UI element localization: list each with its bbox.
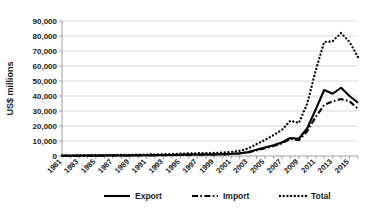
series-line-import [62,99,358,156]
x-tick-label: 1989 [113,157,131,175]
x-tick-label: 1991 [130,157,148,175]
y-tick-label: 70,000 [33,47,58,56]
x-axis-tick-labels: 1981198319851987198919911993199519971999… [45,156,358,175]
x-tick-label: 1985 [79,157,97,175]
x-tick-label: 2013 [316,157,334,175]
y-tick-label: 80,000 [33,32,58,41]
legend-label-total: Total [311,191,331,201]
y-tick-label: 60,000 [33,62,58,71]
x-tick-label: 1999 [197,157,215,175]
legend-label-export: Export [135,191,162,201]
x-tick-label: 2003 [231,157,249,175]
data-series [62,33,358,156]
y-tick-label: 20,000 [33,122,58,131]
chart-legend: ExportImportTotal [104,191,331,201]
gridlines [62,21,358,141]
x-tick-label: 1997 [181,157,199,175]
x-tick-label: 2009 [282,157,300,175]
x-tick-label: 2011 [299,157,317,175]
y-tick-label: 30,000 [33,107,58,116]
x-tick-label: 1983 [62,157,80,175]
x-tick-label: 2015 [333,157,351,175]
x-tick-label: 2005 [248,157,266,175]
y-tick-label: 10,000 [33,137,58,146]
legend-label-import: Import [223,191,250,201]
y-tick-label: 40,000 [33,92,58,101]
x-tick-label: 2001 [214,157,232,175]
x-tick-label: 1995 [164,157,182,175]
series-line-total [62,33,358,156]
x-tick-label: 2007 [265,157,283,175]
y-tick-label: 50,000 [33,77,58,86]
chart-plot-area: 010,00020,00030,00040,00050,00060,00070,… [0,0,372,213]
y-axis-title-text: US$ millions [5,61,15,115]
y-axis-title: US$ millions [5,61,15,115]
axis-lines [62,21,358,156]
line-chart: 010,00020,00030,00040,00050,00060,00070,… [0,0,372,213]
x-tick-label: 1987 [96,157,114,175]
x-tick-label: 1993 [147,157,165,175]
x-tick-label: 1981 [45,157,63,175]
y-tick-label: 90,000 [33,17,58,26]
y-axis-tick-labels: 010,00020,00030,00040,00050,00060,00070,… [33,17,62,161]
